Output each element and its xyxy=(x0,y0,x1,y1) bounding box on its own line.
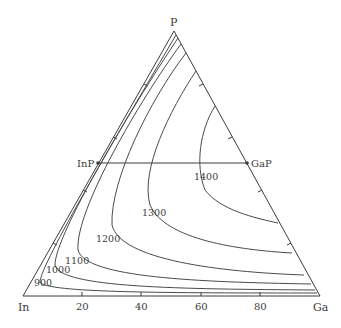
inp-gap-tie-line xyxy=(96,161,249,165)
isotherm-label-1100: 1100 xyxy=(65,255,89,266)
isotherm-1100 xyxy=(78,44,311,284)
compound-label-inp: InP xyxy=(77,158,94,169)
gap-point xyxy=(245,161,249,165)
tick-label-80: 80 xyxy=(254,301,267,312)
vertex-label-ga: Ga xyxy=(313,301,329,314)
tick-label-60: 60 xyxy=(195,301,208,312)
ternary-phase-diagram: P In Ga InP GaP 20 40 60 80 900 1000 110… xyxy=(0,0,341,328)
tick-label-20: 20 xyxy=(76,301,89,312)
compound-label-gap: GaP xyxy=(251,158,272,169)
inp-point xyxy=(96,161,100,165)
isotherm-label-1400: 1400 xyxy=(194,171,218,182)
isotherm-label-900: 900 xyxy=(34,277,52,288)
vertex-label-in: In xyxy=(18,301,29,314)
isotherm-label-1300: 1300 xyxy=(142,207,166,218)
tick-label-40: 40 xyxy=(135,301,148,312)
isotherm-label-1200: 1200 xyxy=(96,233,120,244)
vertex-label-p: P xyxy=(170,16,178,29)
